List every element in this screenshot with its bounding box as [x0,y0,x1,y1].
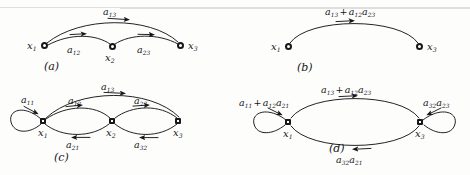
panel-d-edge-label-backward: a32a21 [336,155,363,167]
panel-c-edge-label-a21: a21 [66,140,79,152]
panel-b-edge-combined [290,24,418,44]
panel-d-edge-label-loop1: a11+a12a21 [239,98,289,110]
panel-b-node-label-x3: x3 [427,42,437,53]
panel-a-edge-label-a13: a13 [103,7,116,19]
panel-b-node-label-x1: x1 [271,42,281,53]
panel-d-node-x3[interactable] [417,119,424,126]
panel-c-edge-a23 [115,108,177,118]
panel-d-edge-label-forward: a13+a12a23 [321,85,371,97]
panel-a-node-x3[interactable] [177,42,184,49]
panel-c-edge-a32 [115,124,177,135]
panel-c-edge-a21 [45,124,109,135]
panel-d-edge-backward [291,126,419,146]
panel-a-caption: (a) [44,61,59,72]
panel-a-edge-a13 [47,23,178,43]
panel-c-edge-label-a12: a12 [68,96,81,108]
panel-d-node-x1[interactable] [285,119,292,126]
panel-a-node-x1[interactable] [41,42,48,49]
panel-c-edge-a12 [46,108,110,119]
panel-c-edge-label-a11: a11 [21,95,34,107]
panel-d-edge-loop3-selfloop [423,112,455,133]
panel-c-node-x3[interactable] [175,118,182,125]
panel-d-edge-loop1-selfloop [254,112,286,133]
panel-b-edge-label-combined: a13+a12a23 [325,7,375,19]
panel-c-edge-label-a23: a23 [134,96,147,108]
panel-a-node-label-x3: x3 [188,41,198,52]
panel-c-edge-a11-selfloop [11,110,41,131]
figure-signal-flow-graphs: x1 x2 x3 a13 a12 a23 (a) x1 x3 a13+a12a2… [0,0,470,175]
panel-d-edge-forward [291,99,419,119]
panel-d-edge-backward-arrowhead [355,148,371,149]
panel-d-edge-label-loop3: a32a23 [423,98,450,110]
panel-b-caption: (b) [297,62,313,73]
panel-c-node-label-x2: x2 [106,128,116,139]
panel-c-node-x2[interactable] [109,118,116,125]
panel-a-edge-a12-arrowhead [70,34,84,35]
panel-a-edge-a23 [115,36,178,44]
panel-d-caption: (d) [329,143,345,154]
panel-a-edge-label-a12: a12 [67,45,80,57]
panel-a-node-label-x1: x1 [27,41,37,52]
panel-a-node-label-x2: x2 [105,53,115,64]
panel-b-node-x3[interactable] [416,43,423,50]
panel-b-node-x1[interactable] [285,43,292,50]
panel-c-node-label-x3: x3 [173,128,183,139]
panel-c-caption: (c) [54,152,69,163]
panel-c-node-label-x1: x1 [38,128,48,139]
panel-d-node-label-x1: x1 [283,129,293,140]
panel-b-edge-combined-arrowhead [336,21,352,22]
panel-a-edge-label-a23: a23 [137,45,150,57]
panel-c-edge-label-a32: a32 [134,140,147,152]
panel-c-edge-label-a13: a13 [101,82,114,94]
panel-a-node-x2[interactable] [109,43,116,50]
panel-c-node-x1[interactable] [40,118,47,125]
panel-d-node-label-x3: x3 [415,129,425,140]
panel-a-edge-a12 [48,36,110,45]
